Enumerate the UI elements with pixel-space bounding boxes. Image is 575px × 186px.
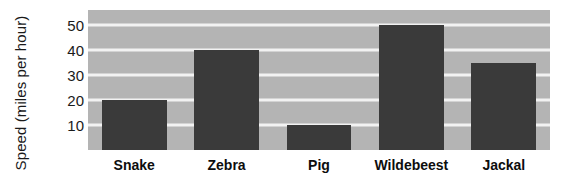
x-axis-tick-label: Jackal — [458, 155, 550, 175]
bars-group — [88, 10, 550, 150]
x-axis-tick-label: Zebra — [180, 155, 272, 175]
bar-chart-figure: Speed (miles per hour) 1020304050 SnakeZ… — [0, 0, 575, 186]
plot-area — [88, 10, 550, 150]
y-axis-tick-label: 30 — [48, 68, 84, 83]
y-axis-tick-label: 50 — [48, 18, 84, 33]
bar — [379, 25, 444, 150]
bar — [102, 100, 167, 150]
y-axis-tick-labels: 1020304050 — [48, 10, 84, 150]
x-axis-tick-label: Wildebeest — [365, 155, 457, 175]
bar — [287, 125, 352, 150]
y-axis-tick-label: 40 — [48, 43, 84, 58]
bar — [471, 63, 536, 151]
x-axis-tick-label: Snake — [88, 155, 180, 175]
x-axis-tick-labels: SnakeZebraPigWildebeestJackal — [88, 155, 550, 177]
y-axis-title: Speed (miles per hour) — [0, 0, 40, 186]
bar — [194, 50, 259, 150]
y-axis-tick-label: 10 — [48, 118, 84, 133]
y-axis-tick-label: 20 — [48, 93, 84, 108]
x-axis-tick-label: Pig — [273, 155, 365, 175]
